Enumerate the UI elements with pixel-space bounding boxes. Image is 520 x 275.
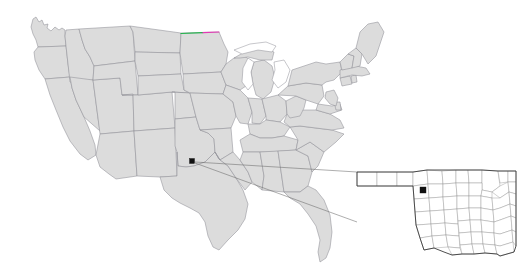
inset-county-grady [458,220,471,233]
main-map-location-marker[interactable] [190,159,195,164]
state-minnesota [180,32,228,74]
inset-county-canadian [457,208,470,221]
state-arizona [96,131,137,179]
inset-county-pontotoc [482,232,495,245]
inset-county-caddo [444,209,458,224]
inset-county-harmon [416,224,432,238]
inset-county-craig [508,171,516,182]
inset-county-roger-mills [414,198,430,212]
inset-highlighted-county-marker[interactable] [420,187,426,193]
us-locator-map-svg [0,0,520,275]
inset-county-stephens [459,232,472,245]
state-ohio [262,95,287,122]
oklahoma-inset-map [357,170,516,256]
state-north-dakota [130,26,181,53]
state-nebraska [138,74,190,95]
state-michigan [251,60,275,99]
inset-county-custer [430,210,445,224]
inset-county-woods [427,170,443,184]
state-new-jersey [325,90,338,106]
inset-county-seminole [481,220,494,233]
inset-county-kay [468,170,482,183]
main-map-states [31,17,384,262]
inset-county-blaine [443,196,457,210]
map-container [0,0,520,275]
state-iowa [183,72,226,94]
inset-county-kiowa [431,223,446,236]
state-new-york [288,62,342,86]
inset-county-oklahoma [469,208,481,220]
inset-county-bryan [483,244,497,254]
inset-county-garfield [456,183,469,196]
inset-county-okfuskee [481,208,494,222]
state-georgia [278,150,312,192]
inset-county-dewey [429,197,444,211]
inset-county-comanche [445,223,459,236]
highlight-magenta-border-segment [203,32,219,33]
inset-county-harper [413,170,428,186]
inset-county-carter [460,244,474,254]
state-south-dakota [135,52,181,76]
inset-county-beckham [415,211,431,225]
inset-county-logan [469,196,481,208]
inset-county-beaver [397,172,413,186]
inset-county-kingfisher [457,196,469,209]
inset-county-tillman [432,235,448,248]
inset-county-major [443,183,457,197]
inset-county-noble [469,183,482,196]
inset-county-texas [377,172,397,186]
inset-county-creek [481,196,493,210]
state-new-mexico [134,128,177,177]
inset-county-woodward [428,184,443,198]
inset-county-alfalfa [442,170,456,184]
inset-county-grant [456,170,469,183]
inset-county-cleveland [470,220,482,232]
lake-huron-erie [272,60,290,88]
inset-county-cimarron [357,172,377,186]
inset-county-nowata [498,171,508,183]
inset-county-garvin [471,232,483,244]
state-oregon [34,46,70,79]
inset-county-johnston [472,244,485,254]
state-washington [31,17,66,47]
state-florida [284,186,332,262]
inset-county-cotton [446,235,460,248]
state-rhode-island [351,75,357,83]
